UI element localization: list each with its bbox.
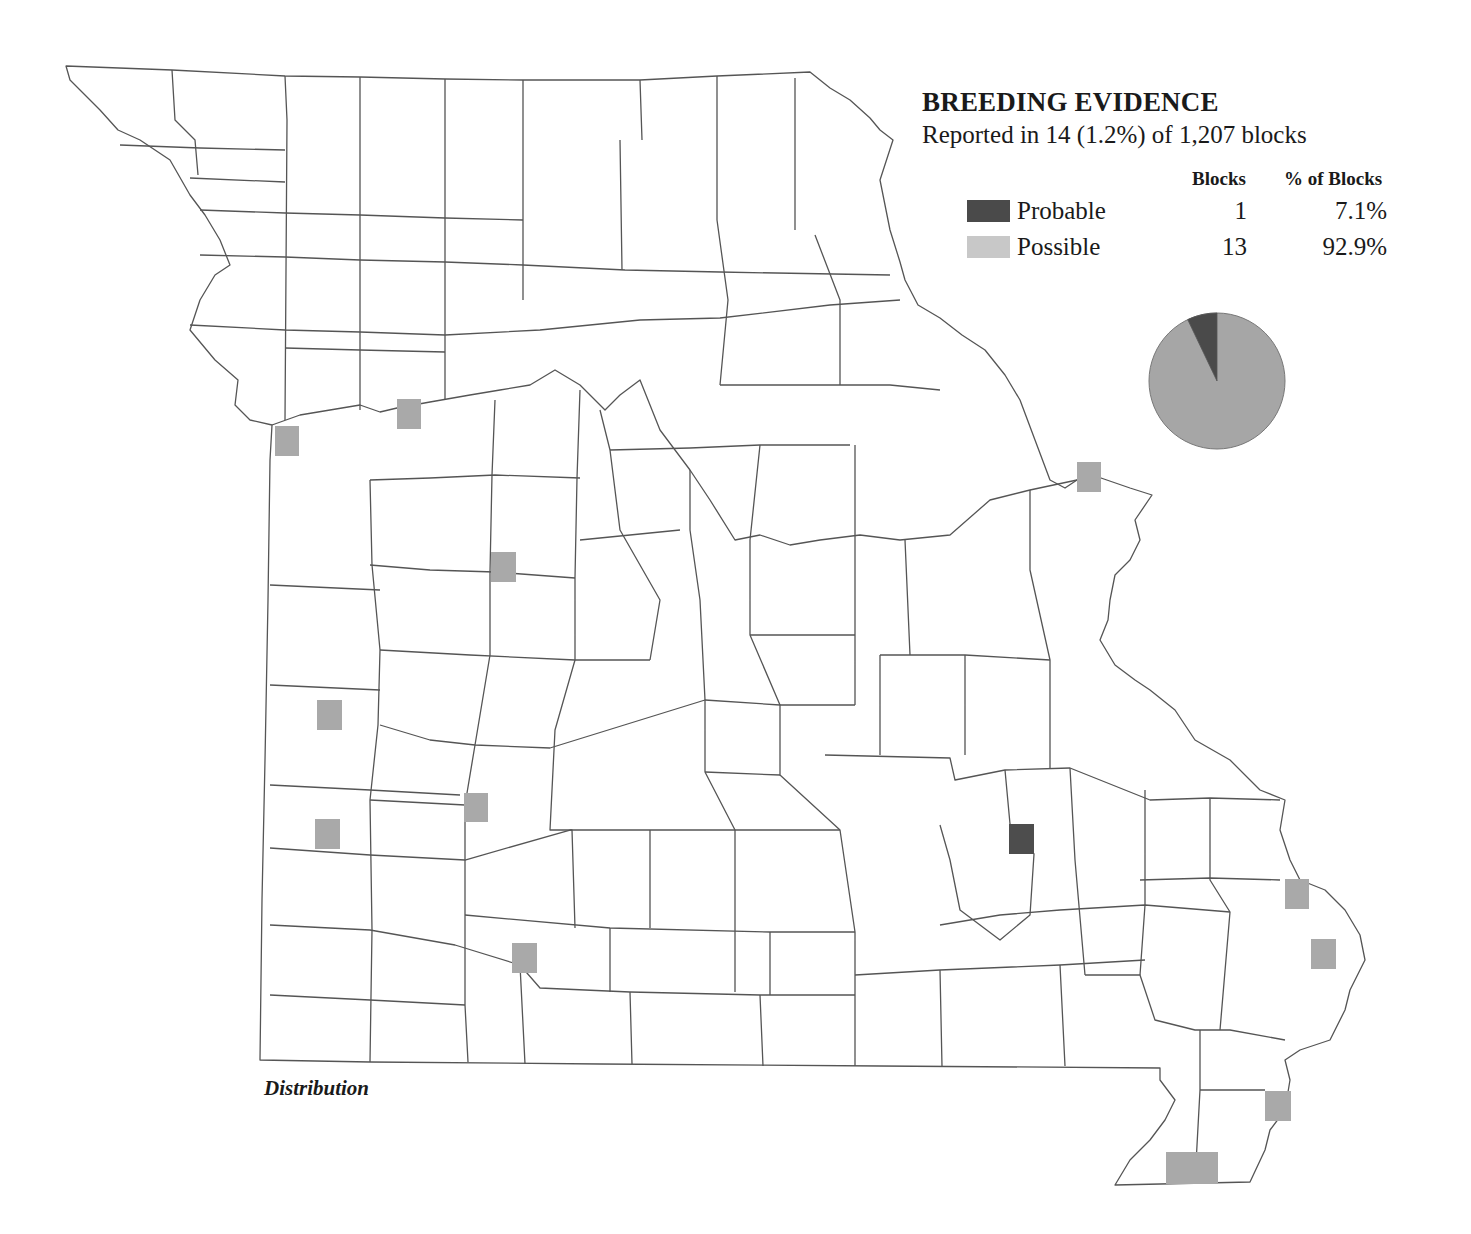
probable-block-marker	[1009, 824, 1034, 854]
missouri-river	[272, 370, 1077, 545]
legend: BREEDING EVIDENCE Reported in 14 (1.2%) …	[922, 86, 1442, 150]
legend-pct-value: 92.9%	[1297, 232, 1387, 262]
possible-block-marker	[491, 552, 516, 582]
map-caption: Distribution	[264, 1076, 369, 1101]
legend-header-pct: % of Blocks	[1284, 168, 1382, 190]
possible-block-marker	[317, 700, 342, 730]
block-markers	[275, 399, 1336, 1184]
possible-block-marker	[1311, 939, 1336, 969]
legend-blocks-value: 13	[1177, 232, 1247, 262]
legend-title: BREEDING EVIDENCE	[922, 86, 1442, 118]
possible-block-marker	[315, 819, 340, 849]
possible-block-marker	[512, 943, 537, 973]
possible-block-marker	[275, 426, 299, 456]
pie-chart	[1149, 313, 1285, 449]
possible-swatch-icon	[967, 236, 1010, 258]
legend-label: Probable	[1017, 196, 1106, 226]
possible-block-marker	[1166, 1152, 1218, 1184]
legend-pct-value: 7.1%	[1297, 196, 1387, 226]
probable-swatch-icon	[967, 200, 1010, 222]
county-lines	[120, 145, 1285, 1090]
missouri-county-map	[0, 0, 1471, 1234]
possible-block-marker	[1285, 879, 1309, 909]
legend-header-blocks: Blocks	[1192, 168, 1246, 190]
possible-block-marker	[397, 399, 421, 429]
possible-block-marker	[1077, 462, 1101, 492]
legend-blocks-value: 1	[1177, 196, 1247, 226]
possible-block-marker	[1265, 1091, 1291, 1121]
legend-subtitle: Reported in 14 (1.2%) of 1,207 blocks	[922, 120, 1442, 150]
state-outline	[66, 66, 1365, 1185]
legend-label: Possible	[1017, 232, 1100, 262]
possible-block-marker	[464, 793, 488, 822]
